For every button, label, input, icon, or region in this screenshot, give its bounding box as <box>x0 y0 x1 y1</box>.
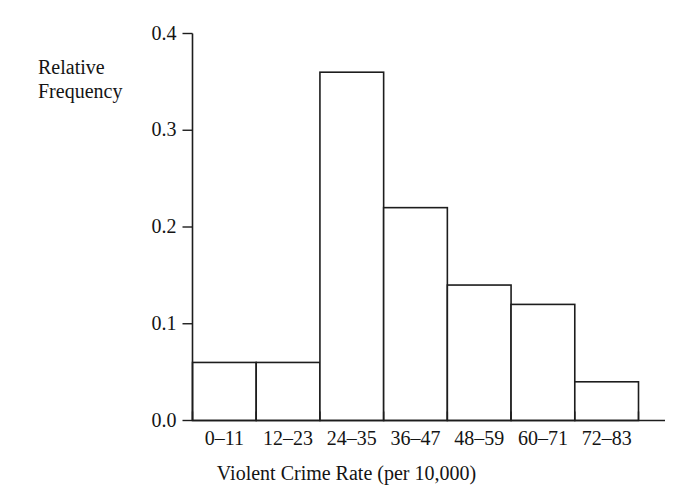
y-axis-tick-label: 0.3 <box>125 119 177 139</box>
histogram-bar <box>511 304 575 420</box>
histogram-bar <box>447 285 511 420</box>
histogram-bar <box>575 382 639 421</box>
histogram-bar <box>193 362 257 420</box>
histogram-bar <box>384 208 448 421</box>
y-axis-tick-label: 0.0 <box>125 410 177 430</box>
y-axis-tick-label: 0.1 <box>125 313 177 333</box>
y-axis-tick-label: 0.4 <box>125 23 177 43</box>
x-axis-title: Violent Crime Rate (per 10,000) <box>0 462 693 485</box>
histogram-bar <box>256 362 320 420</box>
x-axis-tick-label: 72–83 <box>557 428 657 448</box>
y-axis-tick-label: 0.2 <box>125 216 177 236</box>
histogram-figure: Relative Frequency 0.00.10.20.30.4 0–111… <box>0 0 693 502</box>
bars-group <box>193 72 639 420</box>
histogram-bar <box>320 72 384 420</box>
